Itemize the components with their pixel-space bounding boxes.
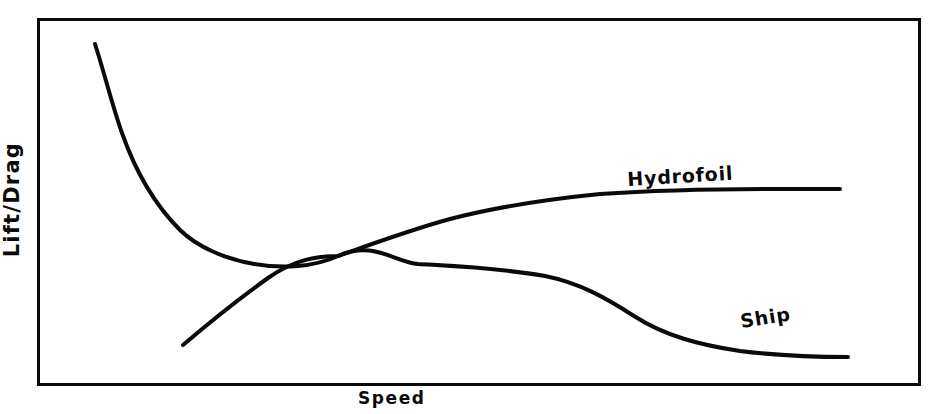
plot-frame: [39, 20, 920, 385]
x-axis-label: Speed: [358, 390, 426, 407]
y-axis-label: Lift/Drag: [2, 27, 23, 142]
series-line-ship: [95, 44, 848, 357]
y-axis-label-text: Lift/Drag: [2, 142, 23, 257]
chart-figure: Lift/Drag Speed Hydrofoil Ship: [0, 0, 931, 414]
chart-plot-area: [0, 0, 931, 414]
